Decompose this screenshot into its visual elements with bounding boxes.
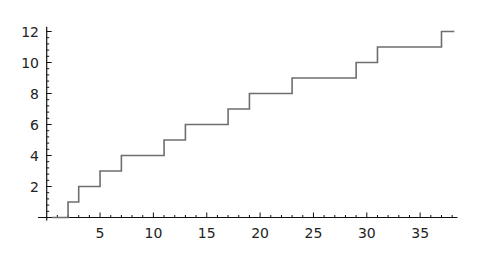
x-tick-label: 20 <box>251 225 269 241</box>
y-tick-label: 10 <box>21 55 39 71</box>
x-tick-label: 5 <box>96 225 105 241</box>
x-tick-label: 30 <box>358 225 376 241</box>
y-tick-label: 2 <box>30 179 39 195</box>
x-tick-label: 35 <box>411 225 429 241</box>
y-axis <box>47 27 52 221</box>
x-tick-label: 10 <box>144 225 162 241</box>
y-tick-label: 4 <box>30 148 39 164</box>
y-tick-labels: 24681012 <box>21 24 39 195</box>
step-chart: 5101520253035 24681012 <box>0 0 487 257</box>
step-series-line <box>52 32 454 218</box>
x-tick-label: 25 <box>305 225 323 241</box>
x-tick-labels: 5101520253035 <box>96 225 429 241</box>
y-tick-label: 6 <box>30 117 39 133</box>
x-tick-label: 15 <box>198 225 216 241</box>
x-axis <box>38 213 457 218</box>
y-tick-label: 12 <box>21 24 39 40</box>
y-tick-label: 8 <box>30 86 39 102</box>
